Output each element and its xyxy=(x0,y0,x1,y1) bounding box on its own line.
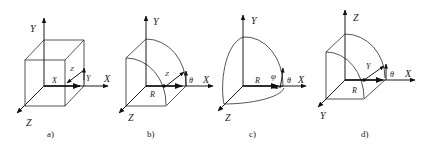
panel-a: Y X Z X Y Z a) xyxy=(17,18,111,139)
caption-c: c) xyxy=(249,129,256,139)
caption-b: b) xyxy=(147,129,155,139)
x-axis-label: X xyxy=(202,74,210,85)
z-axis-label: Z xyxy=(353,12,359,23)
cube-edge xyxy=(25,40,44,60)
z-axis-label: Z xyxy=(128,112,134,123)
r-label: R xyxy=(254,76,260,85)
caption-a: a) xyxy=(47,129,54,139)
y-axis-label: Y xyxy=(251,15,258,26)
x-inner-label: X xyxy=(51,76,58,85)
z-axis-label: Z xyxy=(26,117,32,128)
phi-label: φ xyxy=(271,71,276,81)
arc-y-to-x xyxy=(243,37,283,86)
z-axis xyxy=(17,86,44,113)
r-label: R xyxy=(149,90,155,99)
theta-label: θ xyxy=(390,70,394,79)
z-inner-label: Z xyxy=(70,65,74,73)
y-inner-label: Y xyxy=(366,62,372,71)
edge xyxy=(364,80,385,99)
edge xyxy=(326,34,345,52)
panel-b: Y X Z R Z θ b) xyxy=(119,16,213,139)
z-axis xyxy=(119,86,146,113)
theta-label: θ xyxy=(189,76,193,85)
coordinate-systems-figure: Y X Z X Y Z a) Y X Z R Z θ b) xyxy=(0,0,426,151)
y-inner-label: Y xyxy=(86,74,92,83)
edge xyxy=(126,39,146,58)
x-axis-label: X xyxy=(404,68,412,79)
y-axis-label: Y xyxy=(153,16,160,27)
panel-d: Z X Y R Y θ d) xyxy=(318,10,415,139)
x-axis-label: X xyxy=(103,73,111,84)
y-axis xyxy=(318,80,345,107)
point-marker xyxy=(162,84,166,88)
cube-edge xyxy=(65,86,84,106)
outer-arc-back xyxy=(146,39,186,86)
outer-arc-back xyxy=(345,34,385,78)
theta-label: θ xyxy=(287,76,291,85)
x-axis-label: X xyxy=(297,74,305,85)
cube-edge xyxy=(65,40,84,60)
z-inner-label: Z xyxy=(165,70,169,78)
caption-d: d) xyxy=(361,129,369,139)
panel-c: Y X Z R φ θ c) xyxy=(218,15,306,139)
y-axis-label: Y xyxy=(30,23,37,34)
arc-y-to-z xyxy=(223,37,243,104)
r-label: R xyxy=(351,86,357,95)
z-axis xyxy=(218,86,243,111)
edge xyxy=(166,86,186,106)
z-axis-label: Z xyxy=(225,112,231,123)
y-axis-label: Y xyxy=(320,110,327,121)
